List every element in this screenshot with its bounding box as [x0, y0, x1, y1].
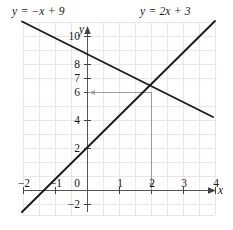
equation-label-line1: y = −x + 9	[12, 5, 65, 17]
y-tick-label-2: 2	[58, 142, 80, 154]
line-y-equals-neg-x-plus-9	[22, 22, 213, 118]
x-tick-label-minus-2: −2	[11, 177, 37, 189]
x-tick-label-minus-1: −1	[43, 177, 69, 189]
y-tick-label-10: 10	[58, 30, 80, 42]
y-tick-label-7: 7	[58, 72, 80, 84]
x-tick-label-1: 1	[107, 177, 133, 189]
guide-horizontal-arrow	[89, 90, 95, 95]
equation-label-line2: y = 2x + 3	[140, 5, 191, 17]
y-tick-label-minus-2: −2	[54, 198, 80, 210]
y-tick-label-8: 8	[58, 58, 80, 70]
y-tick-label-4: 4	[58, 114, 80, 126]
x-tick-label-4: 4	[203, 177, 229, 189]
graph-figure: y = −x + 9 y = 2x + 3 y x 10 8 7 6 4 2 0…	[0, 0, 233, 230]
x-tick-label-2: 2	[139, 177, 165, 189]
x-tick-label-3: 3	[171, 177, 197, 189]
y-tick-label-6: 6	[58, 86, 80, 98]
coordinate-plane-svg	[0, 0, 233, 230]
y-axis-arrow	[84, 26, 90, 34]
